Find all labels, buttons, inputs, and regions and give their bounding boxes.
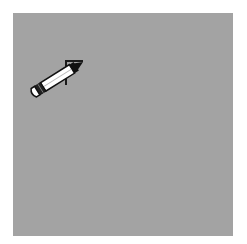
canvas-overlay — [0, 0, 247, 244]
pencil-icon — [29, 58, 85, 98]
